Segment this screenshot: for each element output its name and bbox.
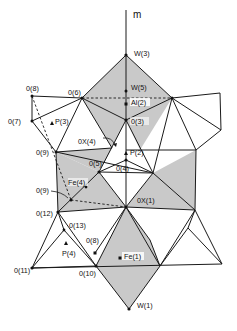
label-fe1: Fe(1) <box>124 252 141 261</box>
atom-o6-right <box>171 97 174 100</box>
atom-o8-top <box>31 95 34 98</box>
atom-o7 <box>31 120 34 123</box>
label-o5: 0(5) <box>89 159 102 168</box>
label-ox4: 0X(4) <box>78 137 96 146</box>
atom-w3 <box>124 53 127 56</box>
atom-fe1 <box>119 257 122 260</box>
label-p2: P(2) <box>130 148 144 157</box>
label-p4: P(4) <box>62 249 76 258</box>
atom-p4 <box>64 241 68 245</box>
atom-o12 <box>56 210 59 213</box>
atom-o4 <box>125 159 128 162</box>
label-w1: W(1) <box>137 301 153 310</box>
label-ox1: 0X(1) <box>137 196 155 205</box>
label-fe4: Fe(4) <box>68 178 85 187</box>
label-o7: 0(7) <box>8 117 21 126</box>
atom-o3 <box>124 118 127 121</box>
atom-p3 <box>50 121 54 125</box>
atom-ox1 <box>124 205 127 208</box>
label-p3: P(3) <box>55 117 69 126</box>
atom-o13 <box>63 229 66 232</box>
atom-o5 <box>97 170 100 173</box>
label-al2: Al(2) <box>131 98 146 107</box>
atom-o11 <box>30 266 33 269</box>
label-o10: 0(10) <box>79 269 96 278</box>
label-w3: W(3) <box>134 49 150 58</box>
atom-al2 <box>125 103 128 106</box>
label-o4: 0(4) <box>116 164 129 173</box>
label-o3: 0(3) <box>131 117 144 126</box>
label-o13: 0(13) <box>69 221 86 230</box>
atom-o6 <box>81 97 84 100</box>
crystal-structure-diagram: m W(3) W(5) Al(2) 0(3) 0(6) 0(8) 0(7) P(… <box>0 0 237 331</box>
label-o11: 0(11) <box>14 266 30 275</box>
atom-p2 <box>124 151 128 155</box>
atom-o10 <box>94 264 97 267</box>
atom-o8-low <box>94 252 97 255</box>
atom-w5 <box>125 90 128 93</box>
label-o9-low: 0(9) <box>36 186 49 195</box>
label-o8-low: 0(8) <box>86 236 99 245</box>
mirror-axis-label: m <box>133 9 141 20</box>
atom-w1 <box>127 307 130 310</box>
atom-o9-low <box>70 199 73 202</box>
label-o9-top: 0(9) <box>36 148 49 157</box>
atom-o9-top <box>55 151 58 154</box>
label-o8-top: 0(8) <box>26 84 39 93</box>
label-w5: W(5) <box>131 83 147 92</box>
label-o12: 0(12) <box>36 209 53 218</box>
label-o6: 0(6) <box>68 88 81 97</box>
